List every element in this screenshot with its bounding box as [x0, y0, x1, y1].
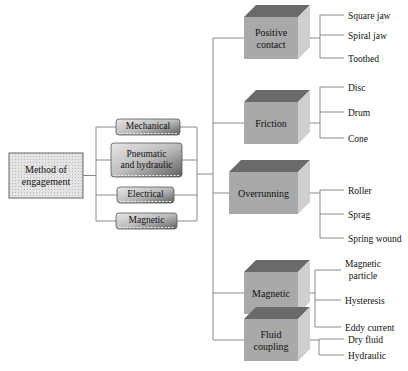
subtype-label: Hydraulic	[348, 351, 386, 361]
method-label: Electrical	[127, 189, 164, 199]
subtype-label: Sprag	[348, 210, 370, 220]
root-label: engagement	[22, 176, 71, 187]
method-nodes: MechanicalPneumaticand hydraulicElectric…	[111, 119, 182, 229]
type-node-magnetic: Magnetic	[244, 260, 310, 314]
subtype-label: Spring wound	[348, 234, 402, 244]
box-top-face	[229, 160, 310, 172]
subtype-label: particle	[349, 271, 377, 281]
root-node: Method ofengagement	[9, 153, 83, 198]
type-node-overrunning: Overrunning	[229, 160, 310, 214]
subtype-label: Toothed	[348, 54, 379, 64]
subtype-label: Hysteresis	[345, 296, 385, 306]
type-label: Friction	[255, 118, 287, 129]
method-label: Magnetic	[129, 215, 165, 225]
type-label: Overrunning	[238, 188, 289, 199]
subtype-label: Spiral jaw	[348, 31, 387, 41]
subtype-label: Magnetic	[345, 259, 381, 269]
subtype-label: Dry fluid	[348, 335, 383, 345]
type-node-positive-contact: Positivecontact	[244, 5, 310, 59]
method-node-mechanical: Mechanical	[116, 119, 180, 135]
type-label: Fluid	[260, 329, 281, 340]
type-label: coupling	[254, 341, 289, 352]
method-label: Pneumatic	[126, 149, 166, 159]
type-nodes: PositivecontactFrictionOverrunningMagnet…	[229, 5, 310, 361]
method-label: and hydraulic	[121, 160, 173, 170]
type-node-friction: Friction	[244, 90, 310, 144]
subtype-label: Cone	[348, 134, 368, 144]
type-label: contact	[257, 39, 286, 50]
subtype-label: Eddy current	[345, 323, 395, 333]
method-node-electrical: Electrical	[117, 187, 174, 203]
method-label: Mechanical	[126, 121, 171, 131]
subtype-label: Roller	[348, 186, 373, 196]
type-label: Magnetic	[252, 288, 290, 299]
type-node-fluid-coupling: Fluidcoupling	[244, 307, 310, 361]
subtype-label: Drum	[348, 108, 371, 118]
type-label: Positive	[255, 27, 288, 38]
subtype-labels: Square jawSpiral jawToothedDiscDrumConeR…	[345, 11, 402, 361]
subtype-label: Disc	[348, 83, 365, 93]
clutch-classification-diagram: Method ofengagement MechanicalPneumatica…	[0, 0, 408, 371]
method-node-pneumatic-hydraulic: Pneumaticand hydraulic	[111, 143, 182, 177]
subtype-label: Square jaw	[348, 11, 391, 21]
method-node-magnetic: Magnetic	[116, 213, 177, 229]
root-label: Method of	[25, 164, 68, 175]
